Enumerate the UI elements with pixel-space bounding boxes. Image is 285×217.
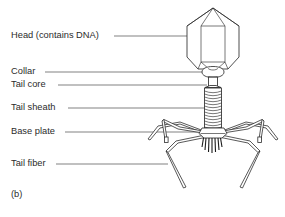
base-plate-body — [199, 128, 227, 138]
tail-fiber-knee-right — [258, 137, 262, 143]
head-body-outline — [187, 8, 239, 69]
tail-fiber-front-left-thigh — [166, 135, 205, 153]
tail-fiber-front-right-shin — [240, 151, 260, 188]
tail-sheath — [205, 88, 222, 129]
base-plate — [199, 128, 227, 153]
capsid-head — [187, 8, 239, 69]
tail-core — [205, 77, 221, 88]
label-base-plate: Base plate — [11, 127, 55, 136]
leader-lines — [45, 36, 211, 164]
tail-fiber-front-left-shin — [166, 151, 186, 188]
tail-core-shoulder — [205, 86, 221, 88]
label-tail-sheath: Tail sheath — [11, 103, 55, 112]
label-collar: Collar — [11, 67, 35, 76]
label-tail-fiber: Tail fiber — [11, 159, 46, 168]
collar-structure — [202, 67, 224, 78]
label-head: Head (contains DNA) — [11, 31, 99, 40]
tail-fiber-knee-left — [165, 137, 169, 143]
figure-panel: Head (contains DNA) Collar Tail core Tai… — [0, 0, 285, 217]
base-plate-spikes — [202, 138, 222, 153]
figure-caption: (b) — [11, 189, 22, 199]
collar-disc — [202, 67, 224, 78]
tail-fiber-front-right-thigh — [221, 135, 260, 153]
label-tail-core: Tail core — [11, 80, 46, 89]
